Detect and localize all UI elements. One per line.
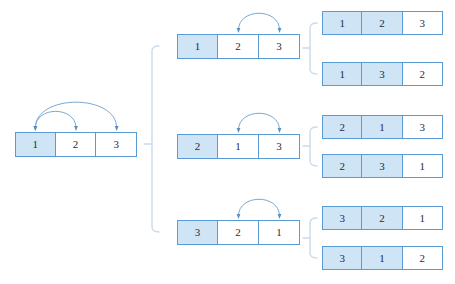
arc-curve bbox=[35, 111, 76, 128]
array-leaf-6: 312 bbox=[322, 246, 443, 270]
array-cell: 3 bbox=[259, 34, 300, 59]
arc-curve bbox=[239, 199, 280, 216]
array-cell: 3 bbox=[322, 246, 362, 270]
arrowhead-source bbox=[33, 126, 37, 131]
array-cell: 2 bbox=[362, 206, 402, 230]
arrowhead-source bbox=[237, 214, 241, 219]
bracket-mid-2 bbox=[310, 127, 317, 166]
array-cell: 2 bbox=[403, 62, 443, 86]
array-cell: 2 bbox=[403, 246, 443, 270]
array-cell: 2 bbox=[322, 154, 362, 178]
arrowhead-target bbox=[278, 214, 282, 219]
array-mid-3: 321 bbox=[177, 220, 300, 245]
array-leaf-5: 321 bbox=[322, 206, 443, 230]
array-cell: 2 bbox=[362, 11, 402, 35]
array-root: 123 bbox=[15, 132, 137, 157]
permutation-tree-diagram: 123123213321123132213231321312 bbox=[0, 0, 455, 284]
array-cell: 3 bbox=[177, 220, 218, 245]
array-leaf-2: 132 bbox=[322, 62, 443, 86]
array-leaf-1: 123 bbox=[322, 11, 443, 35]
array-cell: 2 bbox=[56, 132, 97, 157]
swap-arc-mid-2-0 bbox=[237, 113, 282, 133]
arrowhead-target bbox=[278, 128, 282, 133]
bracket-mid-3 bbox=[310, 218, 317, 258]
array-cell: 1 bbox=[259, 220, 300, 245]
array-cell: 1 bbox=[322, 11, 362, 35]
swap-arc-mid-1-0 bbox=[237, 13, 282, 33]
arrowhead-source bbox=[237, 128, 241, 133]
array-mid-1: 123 bbox=[177, 34, 300, 59]
arrowhead-source bbox=[33, 126, 37, 131]
array-leaf-4: 231 bbox=[322, 154, 443, 178]
array-cell: 3 bbox=[322, 206, 362, 230]
array-mid-2: 213 bbox=[177, 134, 300, 159]
arrowhead-target bbox=[115, 126, 119, 131]
swap-arc-root-0 bbox=[33, 111, 77, 131]
array-cell: 1 bbox=[403, 206, 443, 230]
bracket-mid-1 bbox=[310, 23, 317, 74]
array-cell: 1 bbox=[403, 154, 443, 178]
arrowhead-source bbox=[237, 28, 241, 33]
array-cell: 3 bbox=[403, 115, 443, 139]
array-cell: 1 bbox=[218, 134, 259, 159]
array-cell: 3 bbox=[259, 134, 300, 159]
array-leaf-3: 213 bbox=[322, 115, 443, 139]
array-cell: 2 bbox=[322, 115, 362, 139]
array-cell: 2 bbox=[218, 34, 259, 59]
array-cell: 3 bbox=[403, 11, 443, 35]
array-cell: 1 bbox=[322, 62, 362, 86]
array-cell: 1 bbox=[362, 246, 402, 270]
array-cell: 1 bbox=[362, 115, 402, 139]
arc-curve bbox=[239, 13, 280, 30]
array-cell: 3 bbox=[362, 154, 402, 178]
arc-curve bbox=[35, 102, 116, 128]
arrowhead-target bbox=[74, 126, 78, 131]
swap-arc-root-1 bbox=[33, 102, 118, 131]
array-cell: 2 bbox=[177, 134, 218, 159]
bracket-root bbox=[152, 46, 159, 232]
array-cell: 3 bbox=[96, 132, 137, 157]
array-cell: 3 bbox=[362, 62, 402, 86]
swap-arc-mid-3-0 bbox=[237, 199, 282, 219]
array-cell: 1 bbox=[15, 132, 56, 157]
array-cell: 2 bbox=[218, 220, 259, 245]
array-cell: 1 bbox=[177, 34, 218, 59]
arrowhead-target bbox=[278, 28, 282, 33]
arc-curve bbox=[239, 113, 280, 130]
